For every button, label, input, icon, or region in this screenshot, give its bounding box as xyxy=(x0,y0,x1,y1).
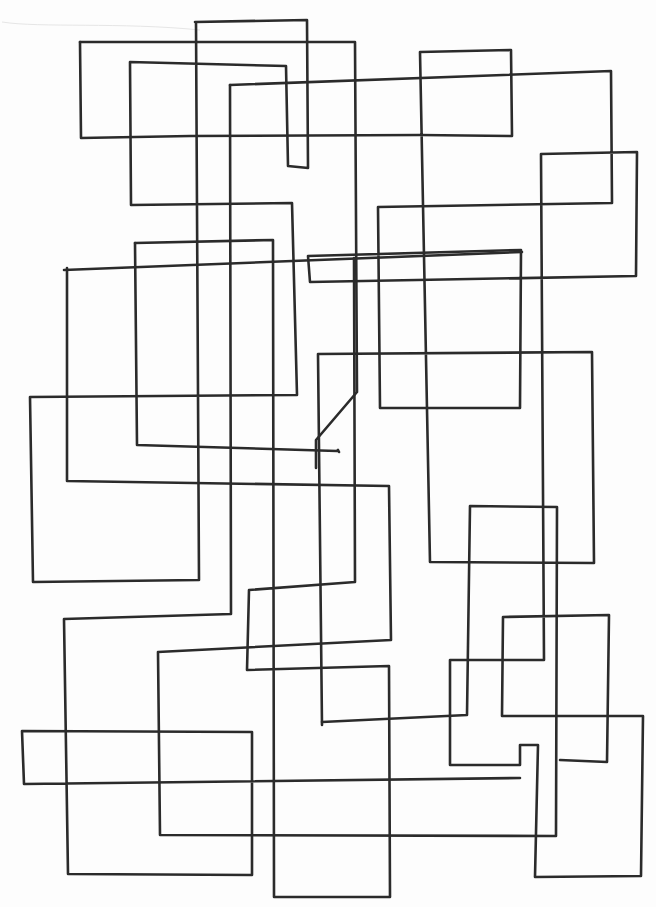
ink-stroke-6 xyxy=(135,240,390,897)
ink-stroke-3 xyxy=(230,71,643,877)
ink-strokes xyxy=(22,20,643,897)
ink-stroke-2 xyxy=(80,42,594,725)
overlapping-rectangles-drawing xyxy=(0,0,656,907)
faint-pencil-mark xyxy=(2,22,200,30)
ink-stroke-0 xyxy=(30,20,308,582)
line-drawing-canvas xyxy=(0,0,656,907)
